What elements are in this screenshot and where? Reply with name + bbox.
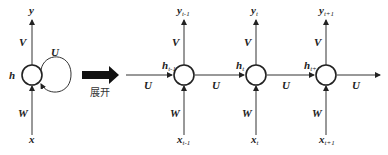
- u-label-2: U: [282, 79, 291, 91]
- folded-rnn: y V h U W x: [9, 4, 71, 145]
- w-label-t-1: W: [170, 107, 181, 119]
- input-label-t: xt: [250, 133, 260, 147]
- hidden-node-t: [246, 65, 266, 85]
- w-label-t+1: W: [312, 107, 323, 119]
- output-label-t: yt: [249, 4, 259, 18]
- unrolled-rnn: U yt-1 V ht-1 W xt-1 U yt V ht W xt U: [126, 4, 380, 147]
- recurrent-loop-arrow: [41, 57, 71, 92]
- unfold-label: 展开: [90, 87, 110, 98]
- folded-u-label: U: [51, 46, 60, 58]
- folded-w-label: W: [18, 107, 29, 119]
- hidden-label-t-1: ht-1: [162, 59, 176, 73]
- hidden-node-t-1: [174, 65, 194, 85]
- rnn-diagram: y V h U W x 展开 U yt-1 V ht-1 W xt-1: [0, 0, 388, 155]
- v-label-t+1: V: [314, 36, 323, 48]
- w-label-t: W: [242, 107, 253, 119]
- folded-hidden-node: [22, 65, 42, 85]
- output-label-t+1: yt+1: [317, 4, 334, 18]
- folded-input-label: x: [28, 133, 35, 145]
- v-label-t: V: [244, 36, 253, 48]
- unfold-arrow: 展开: [82, 66, 119, 98]
- input-label-t-1: xt-1: [176, 133, 190, 147]
- u-label-0: U: [144, 79, 153, 91]
- folded-v-label: V: [19, 36, 28, 48]
- hidden-label-t: ht: [236, 59, 245, 73]
- hidden-node-t+1: [316, 65, 336, 85]
- folded-hidden-label: h: [9, 69, 15, 81]
- output-label-t-1: yt-1: [175, 4, 190, 18]
- u-label-3: U: [352, 79, 361, 91]
- folded-output-label: y: [27, 4, 34, 16]
- u-label-1: U: [212, 79, 221, 91]
- v-label-t-1: V: [172, 36, 181, 48]
- input-label-t+1: xt+1: [318, 133, 335, 147]
